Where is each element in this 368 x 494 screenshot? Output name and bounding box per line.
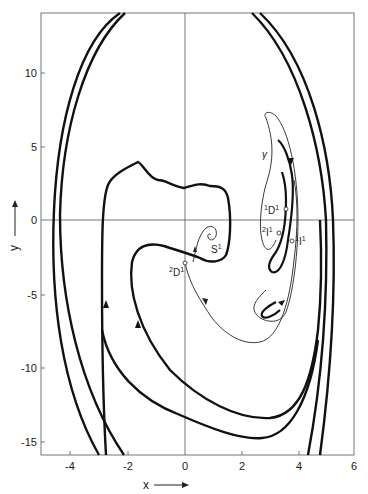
point-marker [277, 231, 281, 235]
y-ticks [41, 73, 45, 442]
gamma-label: γ [262, 149, 268, 160]
label-1I1: 1I1 [295, 235, 306, 247]
label-1D1: 1D1 [264, 204, 279, 216]
lower-fold-trajectory [102, 330, 318, 438]
arrow-head [103, 300, 109, 308]
right-arrow-icon [154, 482, 189, 488]
right-lower-hook [262, 302, 280, 318]
x-tick-label: 0 [182, 460, 188, 472]
y-tick-label: 5 [31, 141, 37, 153]
fold-trajectory [102, 162, 321, 455]
point-marker [290, 239, 294, 243]
y-tick-label: -10 [21, 362, 37, 374]
y-tick-label: 0 [31, 214, 37, 226]
y-tick-label: -5 [27, 289, 37, 301]
arrow-head [278, 300, 285, 306]
label-2D1: 2D1 [169, 266, 184, 278]
x-ticks [70, 451, 299, 455]
x-tick-label: -2 [123, 460, 133, 472]
x-tick-label: 6 [351, 460, 357, 472]
y-tick-label: 10 [25, 67, 37, 79]
phase-portrait-figure: 10 5 0 -5 -10 -15 -4 -2 0 2 4 6 x y γ [0, 0, 368, 494]
point-marker [284, 207, 288, 211]
x-tick-label: -4 [65, 460, 75, 472]
x-axis-label: x [143, 478, 149, 492]
x-tick-label: 4 [296, 460, 302, 472]
outer-trajectory [53, 13, 334, 455]
up-arrow-icon [12, 200, 18, 236]
y-tick-label: -15 [21, 436, 37, 448]
x-tick-label: 2 [239, 460, 245, 472]
separatrix-curve [185, 180, 297, 343]
label-2I1: 2I1 [262, 226, 273, 238]
y-axis-label: y [7, 245, 21, 251]
label-S1: S1 [211, 243, 222, 255]
point-marker [183, 261, 187, 265]
